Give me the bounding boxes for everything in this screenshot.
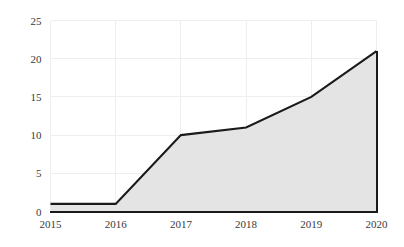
- x-tick-label: 2016: [105, 218, 128, 230]
- y-tick-label: 5: [36, 167, 42, 179]
- chart-container: 2520151050 201520162017201820192020: [0, 0, 404, 247]
- y-tick-label: 25: [31, 15, 43, 27]
- x-tick-label: 2018: [235, 218, 258, 230]
- x-tick-label: 2019: [300, 218, 323, 230]
- y-tick-label: 20: [31, 53, 43, 65]
- x-tick-label: 2017: [170, 218, 193, 230]
- y-tick-label: 0: [36, 206, 42, 218]
- area-chart: 2520151050 201520162017201820192020: [0, 0, 404, 247]
- x-tick-label: 2020: [366, 218, 389, 230]
- y-tick-label: 15: [31, 91, 43, 103]
- y-tick-label: 10: [31, 129, 43, 141]
- x-tick-label: 2015: [40, 218, 63, 230]
